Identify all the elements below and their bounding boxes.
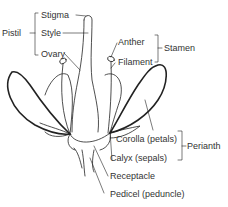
label-filament: Filament bbox=[118, 57, 153, 67]
pedicel bbox=[82, 150, 85, 176]
label-calyx: Calyx (sepals) bbox=[110, 153, 167, 163]
label-ovary: Ovary bbox=[41, 49, 65, 59]
flower-diagram: Stigma Style Ovary Pistil Anther Filamen… bbox=[0, 0, 228, 207]
label-perianth: Perianth bbox=[187, 141, 221, 151]
label-stamen: Stamen bbox=[164, 43, 195, 53]
left-petal bbox=[8, 72, 70, 135]
right-petal bbox=[110, 65, 166, 133]
ovary bbox=[70, 133, 110, 142]
label-anther: Anther bbox=[118, 37, 145, 47]
label-stigma: Stigma bbox=[41, 10, 69, 20]
label-receptacle: Receptacle bbox=[110, 171, 155, 181]
label-pistil: Pistil bbox=[2, 28, 21, 38]
label-style: Style bbox=[41, 28, 61, 38]
label-corolla: Corolla (petals) bbox=[116, 134, 177, 144]
label-pedicel: Pedicel (peduncle) bbox=[110, 189, 185, 199]
